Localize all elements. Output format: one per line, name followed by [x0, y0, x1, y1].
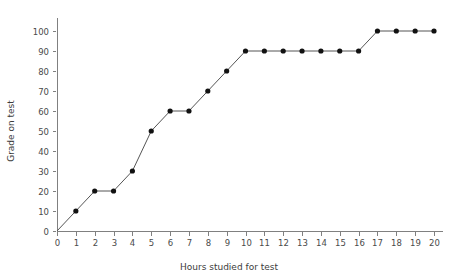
y-tick-label: 40 [38, 147, 49, 157]
y-tick-label: 70 [38, 87, 49, 97]
x-tick-label: 19 [410, 238, 421, 248]
chart-container: 01234567891011121314151617181920 0102030… [0, 0, 459, 278]
x-tick-label: 3 [112, 238, 117, 248]
x-tick-label: 8 [206, 238, 211, 248]
data-point-marker [299, 48, 304, 53]
series-line [57, 31, 434, 231]
x-tick-label: 1 [74, 238, 79, 248]
x-tick-label: 7 [187, 238, 192, 248]
x-tick-label: 9 [225, 238, 230, 248]
x-tick-label: 10 [241, 238, 252, 248]
data-point-marker [168, 108, 173, 113]
y-tick-label: 10 [38, 207, 49, 217]
x-tick-label: 17 [372, 238, 383, 248]
y-tick-label: 90 [38, 47, 49, 57]
data-point-marker [337, 48, 342, 53]
data-point-marker [224, 68, 229, 73]
x-tick-label: 14 [316, 238, 327, 248]
x-tick-label: 0 [55, 238, 60, 248]
data-point-marker [149, 128, 154, 133]
data-point-marker [130, 168, 135, 173]
y-axis-ticks: 0102030405060708090100 [33, 27, 56, 237]
data-point-marker [262, 48, 267, 53]
data-point-marker [92, 188, 97, 193]
x-axis-ticks: 01234567891011121314151617181920 [55, 232, 440, 248]
x-tick-label: 11 [259, 238, 270, 248]
data-point-marker [186, 108, 191, 113]
data-point-marker [281, 48, 286, 53]
y-tick-label: 30 [38, 167, 49, 177]
axes [58, 18, 444, 232]
data-point-marker [73, 208, 78, 213]
data-point-marker [356, 48, 361, 53]
data-point-marker [318, 48, 323, 53]
x-axis-title: Hours studied for test [180, 262, 278, 272]
x-tick-label: 16 [354, 238, 365, 248]
x-tick-label: 5 [149, 238, 154, 248]
data-point-marker [243, 48, 248, 53]
data-point-marker [431, 28, 436, 33]
x-tick-label: 13 [297, 238, 308, 248]
y-tick-label: 100 [33, 27, 49, 37]
data-point-marker [413, 28, 418, 33]
y-tick-label: 80 [38, 67, 49, 77]
line-chart: 01234567891011121314151617181920 0102030… [0, 0, 459, 278]
x-tick-label: 20 [429, 238, 440, 248]
y-tick-label: 60 [38, 107, 49, 117]
y-tick-label: 0 [44, 227, 49, 237]
y-tick-label: 50 [38, 127, 49, 137]
x-tick-label: 15 [335, 238, 346, 248]
x-tick-label: 6 [168, 238, 173, 248]
data-point-marker [375, 28, 380, 33]
data-point-marker [111, 188, 116, 193]
y-tick-label: 20 [38, 187, 49, 197]
data-point-marker [205, 88, 210, 93]
x-tick-label: 2 [93, 238, 98, 248]
data-series [57, 28, 437, 231]
data-point-marker [394, 28, 399, 33]
x-tick-label: 4 [130, 238, 135, 248]
x-tick-label: 18 [391, 238, 402, 248]
y-axis-title: Grade on test [6, 100, 16, 162]
x-tick-label: 12 [278, 238, 289, 248]
